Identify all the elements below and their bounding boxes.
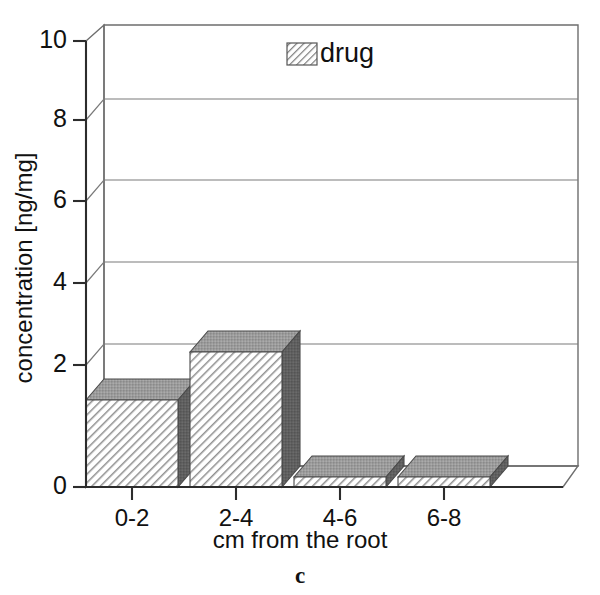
bar-6-8[interactable] [398,456,508,487]
y-tick-marks [73,41,86,487]
x-axis-title: cm from the root [213,526,388,553]
y-tick-label-0: 0 [53,471,67,499]
bar-front-face [86,400,178,487]
gridlines [86,99,578,365]
legend-label-drug: drug [320,38,374,68]
y-tick-label-4: 4 [53,267,67,295]
bar-top-face [86,379,196,400]
x-tick-marks [132,487,444,500]
gridline-4 [86,262,578,283]
bar-chart-3d: 10 8 6 4 2 0 0-2 2-4 4-6 6-8 cm from the… [0,0,600,595]
y-axis-title: concentration [ng/mg] [10,153,37,384]
y-tick-label-6: 6 [53,185,67,213]
legend-swatch-drug [287,43,317,65]
x-tick-label-6-8: 6-8 [427,504,462,531]
bar-top-face [190,331,300,352]
x-tick-label-0-2: 0-2 [115,504,150,531]
chart-figure: 10 8 6 4 2 0 0-2 2-4 4-6 6-8 cm from the… [0,0,600,595]
bar-2-4[interactable] [190,331,300,487]
bar-top-face [398,456,508,477]
y-tick-label-10: 10 [39,25,67,53]
panel-letter: c [295,563,305,588]
bar-front-face [398,477,490,487]
legend[interactable]: drug [287,38,374,68]
y-tick-label-8: 8 [53,104,67,132]
bar-0-2[interactable] [86,379,196,487]
bar-front-face [190,352,282,487]
gridline-6 [86,180,578,201]
bar-side-face [282,331,300,487]
bar-top-face [294,456,404,477]
gridline-8 [86,99,578,120]
bar-4-6[interactable] [294,456,404,487]
gridline-2 [86,344,578,365]
y-tick-label-2: 2 [53,349,67,377]
bar-front-face [294,477,386,487]
